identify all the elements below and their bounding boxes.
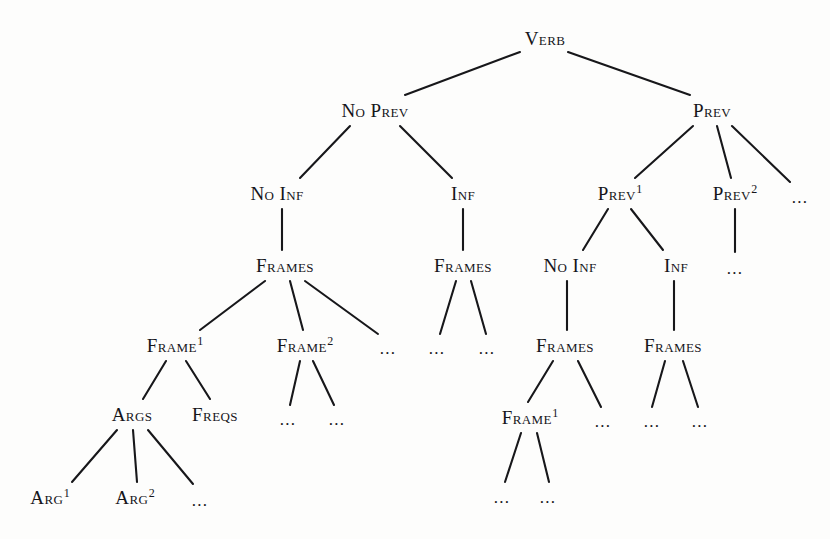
- tree-edge: [405, 52, 520, 95]
- tree-node-ellipsis-ell-framesd-1: ...: [644, 413, 660, 430]
- tree-node-inf-a: Inf: [451, 184, 475, 203]
- tree-edge: [72, 430, 117, 482]
- tree-edge: [583, 209, 608, 250]
- tree-node-ellipsis-ell-frame1b-2: ...: [540, 489, 556, 506]
- tree-node-verb: Verb: [525, 29, 566, 48]
- superscript: 1: [552, 406, 559, 420]
- superscript: 1: [636, 182, 643, 196]
- tree-edge: [300, 126, 350, 178]
- tree-edge: [440, 281, 456, 334]
- tree-node-no-inf-b: No Inf: [543, 256, 596, 275]
- tree-edge: [200, 281, 265, 330]
- tree-node-ellipsis-ell-framesd-2: ...: [692, 413, 708, 430]
- superscript: 2: [327, 334, 334, 348]
- tree-edge: [717, 126, 731, 178]
- tree-node-ellipsis-ell-framesc-2: ...: [595, 413, 611, 430]
- tree-node-ellipsis-ell-frames-b-2: ...: [479, 340, 495, 357]
- tree-node-arg-2: Arg2: [115, 487, 154, 507]
- tree-edge: [305, 281, 378, 334]
- tree-edge: [631, 209, 663, 250]
- tree-edge: [133, 430, 137, 482]
- superscript: 2: [148, 486, 155, 500]
- superscript: 2: [751, 182, 758, 196]
- superscript: 1: [197, 334, 204, 348]
- tree-node-ellipsis-ell-args-3: ...: [192, 492, 208, 509]
- tree-edge: [186, 361, 210, 399]
- tree-edge: [537, 433, 549, 482]
- tree-node-freqs: Freqs: [192, 405, 238, 424]
- tree-edge: [471, 281, 486, 334]
- tree-edge: [568, 52, 690, 95]
- tree-node-frame-2-a: Frame2: [277, 335, 334, 355]
- tree-edge: [290, 361, 300, 405]
- superscript: 1: [63, 486, 70, 500]
- tree-node-ellipsis-ell-prev-3: ...: [792, 189, 808, 206]
- tree-node-ellipsis-ell-frame2a-1: ...: [280, 411, 296, 428]
- tree-node-no-inf-a: No Inf: [250, 184, 303, 203]
- tree-node-arg-1: Arg1: [30, 487, 69, 507]
- tree-edge: [505, 433, 521, 482]
- tree-node-ellipsis-ell-frames-b-1: ...: [429, 340, 445, 357]
- tree-edge: [290, 281, 303, 330]
- tree-edge: [313, 361, 334, 405]
- tree-node-ellipsis-ell-frames-a-3: ...: [380, 340, 396, 357]
- tree-node-frames-d: Frames: [644, 336, 702, 355]
- tree-node-ellipsis-ell-prev2-child: ...: [727, 260, 743, 277]
- tree-node-prev-2: Prev2: [713, 183, 758, 203]
- tree-edge: [143, 361, 166, 399]
- tree-node-frames-c: Frames: [536, 336, 594, 355]
- tree-edge: [652, 361, 665, 407]
- tree-edge: [578, 361, 601, 407]
- tree-node-frames-a: Frames: [256, 256, 314, 275]
- tree-node-no-prev: No Prev: [341, 101, 408, 120]
- tree-edge: [148, 430, 193, 484]
- tree-edge: [528, 361, 553, 402]
- tree-diagram-figure: VerbNo PrevPrevNo InfInfPrev1Prev2...Fra…: [0, 0, 830, 539]
- tree-node-frame-1-a: Frame1: [147, 335, 204, 355]
- tree-node-args: Args: [112, 405, 153, 424]
- tree-node-ellipsis-ell-frame2a-2: ...: [329, 411, 345, 428]
- tree-node-ellipsis-ell-frame1b-1: ...: [494, 489, 510, 506]
- tree-node-prev: Prev: [693, 101, 731, 120]
- tree-edges-layer: [0, 0, 830, 539]
- tree-node-frames-b: Frames: [434, 256, 492, 275]
- tree-edge: [683, 361, 698, 407]
- tree-node-frame-1-b: Frame1: [502, 407, 559, 427]
- tree-edge: [732, 126, 790, 182]
- tree-edge: [400, 126, 452, 178]
- tree-edge: [635, 126, 693, 178]
- tree-node-inf-b: Inf: [664, 256, 688, 275]
- tree-node-prev-1: Prev1: [598, 183, 643, 203]
